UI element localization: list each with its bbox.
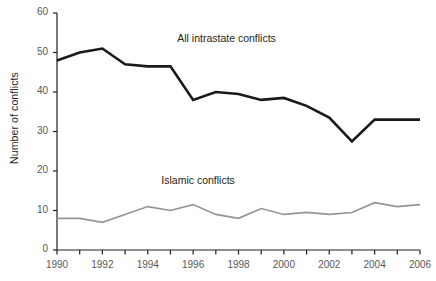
y-tick-label-40: 40 [8, 85, 48, 96]
y-tick-label-0: 0 [8, 243, 48, 254]
x-tick-label-2004: 2004 [350, 259, 400, 270]
y-tick-label-20: 20 [8, 164, 48, 175]
x-tick-label-2006: 2006 [395, 259, 436, 270]
x-tick-label-1992: 1992 [77, 259, 127, 270]
y-tick-label-60: 60 [8, 6, 48, 17]
x-tick-label-1990: 1990 [32, 259, 82, 270]
x-tick-label-2000: 2000 [259, 259, 309, 270]
y-tick-label-50: 50 [8, 46, 48, 57]
series-line-all-intrastate-conflicts [57, 49, 420, 142]
series-label-all-intrastate-conflicts: All intrastate conflicts [177, 32, 276, 44]
series-line-islamic-conflicts [57, 203, 420, 223]
x-tick-label-2002: 2002 [304, 259, 354, 270]
x-tick-label-1998: 1998 [214, 259, 264, 270]
y-tick-label-30: 30 [8, 125, 48, 136]
conflicts-line-chart: Number of conflicts 0102030405060 199019… [0, 0, 436, 281]
series-label-islamic-conflicts: Islamic conflicts [161, 174, 235, 186]
x-tick-label-1994: 1994 [123, 259, 173, 270]
y-tick-label-10: 10 [8, 204, 48, 215]
x-tick-label-1996: 1996 [168, 259, 218, 270]
